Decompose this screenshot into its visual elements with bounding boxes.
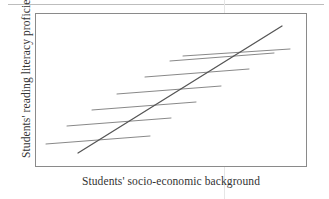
plot-canvas — [35, 13, 307, 167]
within-school-gradient-line-4 — [117, 86, 221, 94]
x-axis-label: Students' socio-economic background — [35, 175, 307, 187]
figure-container: Students' reading literacy proficiency S… — [0, 0, 329, 199]
within-school-gradient-line-6 — [170, 53, 274, 61]
within-school-gradient-line-3 — [92, 102, 196, 110]
between-school-gradient-group — [78, 26, 282, 153]
y-axis-label: Students' reading literacy proficiency — [20, 0, 32, 158]
within-school-gradient-line-5 — [145, 69, 249, 77]
within-school-gradient-line-2 — [67, 118, 171, 126]
between-school-gradient-line — [78, 26, 282, 153]
